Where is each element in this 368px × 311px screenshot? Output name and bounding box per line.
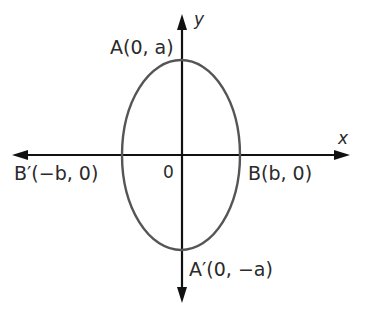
ellipse-diagram — [0, 0, 368, 311]
x-axis-left-arrow-icon — [12, 150, 28, 160]
y-axis-label: y — [194, 11, 204, 28]
y-axis — [177, 14, 187, 303]
y-axis-up-arrow-icon — [177, 14, 187, 30]
y-axis-down-arrow-icon — [177, 287, 187, 303]
point-a-prime-label: A′(0, −a) — [189, 260, 273, 279]
point-a-label: A(0, a) — [110, 38, 174, 57]
point-b-prime-label: B′(−b, 0) — [14, 164, 98, 183]
x-axis-right-arrow-icon — [334, 150, 350, 160]
point-b-label: B(b, 0) — [248, 164, 312, 183]
x-axis-label: x — [338, 130, 348, 147]
origin-label: 0 — [163, 164, 174, 181]
